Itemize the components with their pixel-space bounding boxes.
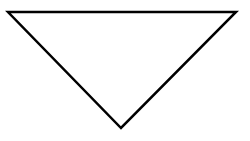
diagram-canvas bbox=[0, 0, 250, 141]
inverted-triangle-shape bbox=[8, 12, 236, 128]
